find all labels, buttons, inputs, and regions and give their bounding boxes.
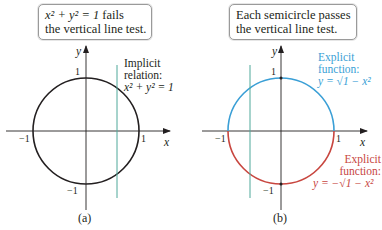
equation: x² + y² = 1 [45,8,99,22]
explicit-function-lower-label: Explicit function: [315,153,381,177]
y-axis-label: y [272,45,277,57]
tick-x-1: 1 [336,134,341,144]
point-top [280,77,283,80]
tick-y-1: 1 [75,67,80,77]
tick-x-neg1: −1 [19,134,30,144]
x-axis-label: x [164,136,169,148]
caption-a: (a) [78,212,91,224]
callout-fails-test: x² + y² = 1 fails the vertical line test… [38,4,152,40]
x-axis-label: x [360,136,365,148]
implicit-relation-label: Implicit relation: x² + y² = 1 [124,57,174,93]
tick-x-neg1: −1 [215,134,226,144]
explicit-function-upper-label: Explicit function: y = √1 − x² [318,51,371,87]
tick-y-1: 1 [271,67,276,77]
y-axis-label: y [76,45,81,57]
caption-b: (b) [273,212,287,224]
callout-passes-test: Each semicircle passes the vertical line… [229,4,357,40]
point-bottom [280,183,283,186]
explicit-function-lower-equation: y = −√1 − x² [313,177,374,189]
tick-x-1: 1 [141,134,146,144]
tick-y-neg1: −1 [67,186,78,196]
tick-y-neg1: −1 [263,186,274,196]
